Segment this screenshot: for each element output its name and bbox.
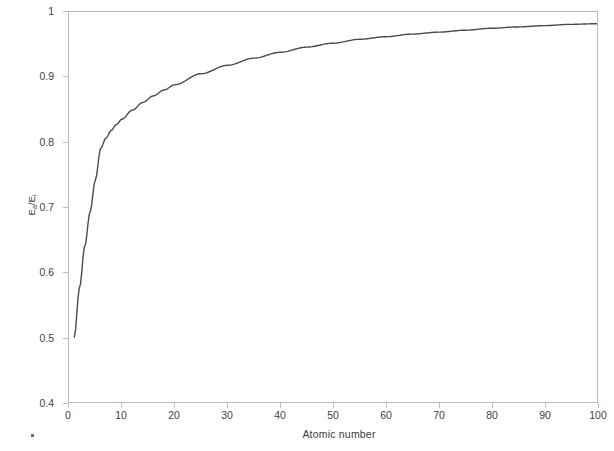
data-series-line	[74, 24, 597, 337]
x-tick-label: 90	[525, 409, 565, 421]
y-tick-label: 1	[0, 6, 54, 16]
x-tick-mark	[227, 403, 228, 408]
x-tick-label: 10	[101, 409, 141, 421]
x-tick-mark	[68, 403, 69, 408]
y-axis: 0.40.50.60.70.80.91	[0, 0, 62, 451]
y-axis-title: Ea/Ei	[11, 190, 51, 220]
x-tick-label: 30	[207, 409, 247, 421]
x-axis: 0102030405060708090100	[0, 409, 614, 429]
x-tick-label: 60	[366, 409, 406, 421]
y-tick-label: 0.9	[0, 71, 54, 81]
x-axis-title: Atomic number	[0, 428, 614, 440]
x-tick-label: 100	[578, 409, 614, 421]
y-axis-title-label: Ea/Ei	[26, 195, 37, 216]
x-axis-title-label: Atomic number	[302, 428, 375, 440]
x-tick-label: 40	[260, 409, 300, 421]
scan-artifact-dot	[31, 434, 34, 437]
x-tick-label: 0	[48, 409, 88, 421]
x-tick-label: 70	[419, 409, 459, 421]
y-tick-label: 0.4	[0, 398, 54, 408]
y-tick-label: 0.8	[0, 137, 54, 147]
x-tick-mark	[280, 403, 281, 408]
y-tick-label: 0.6	[0, 267, 54, 277]
y-tick-label: 0.5	[0, 333, 54, 343]
x-tick-mark	[545, 403, 546, 408]
curve-svg	[69, 12, 597, 402]
x-tick-label: 50	[313, 409, 353, 421]
chart-figure: 0.40.50.60.70.80.91 01020304050607080901…	[0, 0, 614, 451]
plot-area	[68, 11, 598, 403]
x-tick-mark	[439, 403, 440, 408]
x-tick-mark	[121, 403, 122, 408]
x-tick-label: 20	[154, 409, 194, 421]
x-tick-mark	[333, 403, 334, 408]
x-tick-mark	[492, 403, 493, 408]
x-tick-label: 80	[472, 409, 512, 421]
x-tick-mark	[386, 403, 387, 408]
x-tick-mark	[598, 403, 599, 408]
x-tick-mark	[174, 403, 175, 408]
